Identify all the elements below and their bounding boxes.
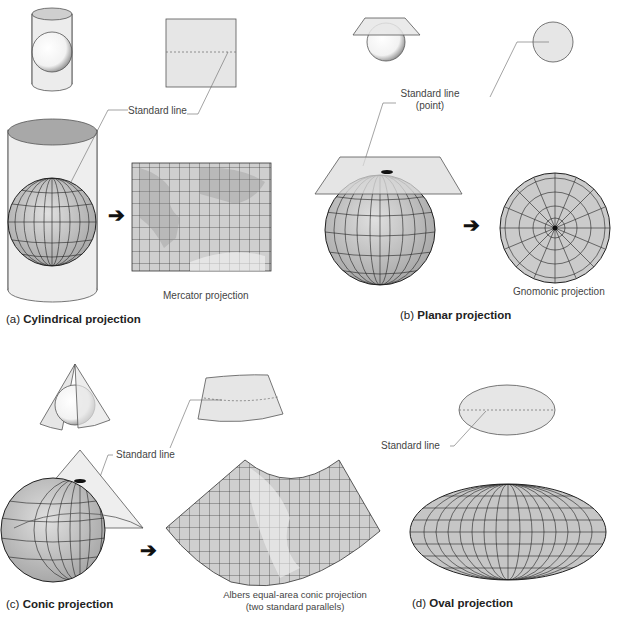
caption-letter: (b) bbox=[400, 309, 414, 321]
globe-a-icon bbox=[8, 178, 96, 266]
gnomonic-map-icon bbox=[500, 173, 610, 283]
arrow-right-icon: ➔ bbox=[108, 205, 125, 225]
standard-line-label-d: Standard line bbox=[381, 440, 440, 451]
plane-small-icon bbox=[353, 18, 420, 61]
caption-c: (c) Conic projection bbox=[6, 598, 113, 610]
standard-line-text: Standard line bbox=[400, 88, 460, 100]
gnomonic-label: Gnomonic projection bbox=[513, 286, 605, 297]
standard-line-label-a: Standard line bbox=[128, 105, 187, 116]
cylinder-small-icon bbox=[32, 8, 72, 91]
arrow-right-icon: ➔ bbox=[140, 540, 157, 560]
cone-small-icon bbox=[40, 364, 110, 430]
standard-line-label-c: Standard line bbox=[116, 449, 175, 460]
caption-title: Oval projection bbox=[429, 597, 513, 609]
caption-b: (b) Planar projection bbox=[400, 309, 511, 321]
albers-title: Albers equal-area conic projection bbox=[200, 589, 390, 601]
caption-title: Cylindrical projection bbox=[23, 313, 141, 325]
caption-letter: (a) bbox=[6, 313, 20, 325]
oval-unrolled-icon bbox=[459, 385, 555, 435]
cylinder-unrolled-icon bbox=[166, 19, 236, 87]
albers-label: Albers equal-area conic projection (two … bbox=[200, 589, 390, 613]
albers-map-icon bbox=[166, 460, 380, 586]
caption-letter: (d) bbox=[412, 597, 426, 609]
caption-letter: (c) bbox=[6, 598, 19, 610]
standard-line-label-b: Standard line (point) bbox=[400, 88, 460, 112]
albers-sub: (two standard parallels) bbox=[200, 601, 390, 613]
tangent-plane-icon bbox=[315, 157, 462, 194]
arrow-right-icon: ➔ bbox=[463, 215, 480, 235]
oval-map-icon bbox=[410, 484, 606, 580]
cone-unrolled-icon bbox=[198, 375, 283, 422]
caption-title: Planar projection bbox=[417, 309, 511, 321]
caption-title: Conic projection bbox=[23, 598, 114, 610]
mercator-map-icon bbox=[132, 163, 271, 271]
mercator-label: Mercator projection bbox=[163, 290, 249, 301]
caption-d: (d) Oval projection bbox=[412, 597, 513, 609]
standard-line-sub: (point) bbox=[400, 100, 460, 112]
caption-a: (a) Cylindrical projection bbox=[6, 313, 141, 325]
